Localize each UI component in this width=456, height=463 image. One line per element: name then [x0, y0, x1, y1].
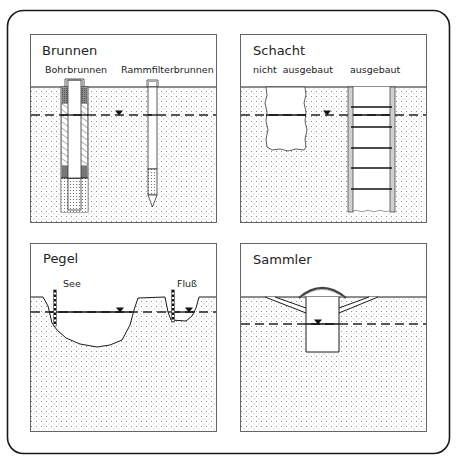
panel-title-schacht: Schacht — [253, 43, 305, 58]
label-nicht-ausgebaut: nicht ausgebaut — [253, 64, 333, 75]
panel-pegel: Pegel See Fluß — [31, 244, 217, 432]
label-see: See — [63, 278, 81, 289]
panel-title-sammler: Sammler — [253, 252, 312, 267]
label-fluss: Fluß — [177, 278, 197, 289]
panel-title-pegel: Pegel — [43, 251, 78, 266]
groundwater-extraction-diagram: Brunnen Bohrbrunnen Rammfilterbrunnen — [0, 0, 456, 463]
panel-sammler: Sammler — [241, 244, 427, 432]
gauge-see — [54, 290, 57, 326]
label-ausgebaut: ausgebaut — [350, 64, 401, 75]
label-rammfilterbrunnen: Rammfilterbrunnen — [121, 64, 214, 75]
rammfilterbrunnen-well — [147, 80, 158, 207]
unlined-shaft — [265, 87, 307, 151]
panel-brunnen: Brunnen Bohrbrunnen Rammfilterbrunnen — [31, 35, 217, 223]
lined-shaft — [348, 87, 395, 212]
bohrbrunnen-well — [61, 79, 88, 212]
panel-title-brunnen: Brunnen — [42, 43, 97, 58]
label-bohrbrunnen: Bohrbrunnen — [45, 64, 107, 75]
panel-schacht: Schacht nicht ausgebaut ausgebaut — [241, 35, 427, 223]
gauge-fluss — [172, 290, 175, 322]
